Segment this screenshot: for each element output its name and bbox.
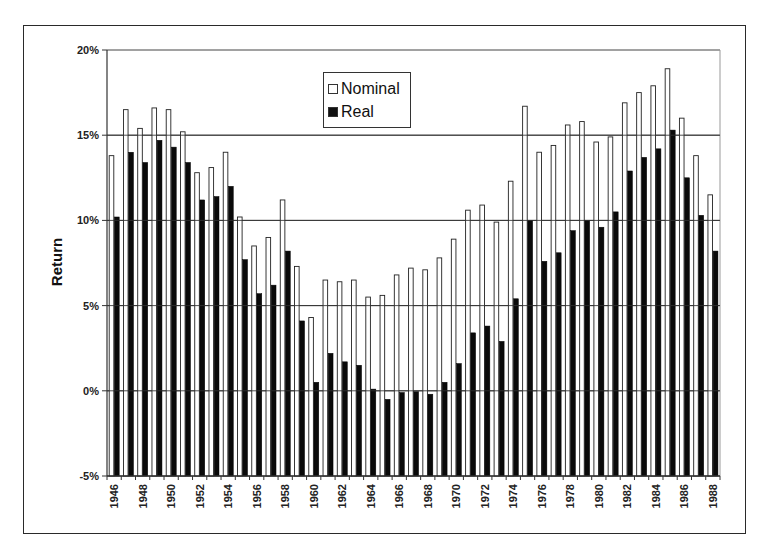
x-tick-label: 1958 xyxy=(279,484,291,508)
bar-series xyxy=(109,69,718,476)
bar-real xyxy=(699,215,704,476)
x-tick-label: 1986 xyxy=(678,484,690,508)
bar-nominal xyxy=(694,156,699,476)
bar-real xyxy=(485,326,490,476)
bar-real xyxy=(628,171,633,476)
bar-real xyxy=(143,162,148,476)
bar-real xyxy=(685,178,690,476)
bar-real xyxy=(542,261,547,476)
x-tick-label: 1984 xyxy=(650,483,662,508)
bar-real xyxy=(656,149,661,476)
x-tick-label: 1972 xyxy=(479,484,491,508)
bar-nominal xyxy=(622,103,627,476)
bar-nominal xyxy=(252,246,257,476)
bar-nominal xyxy=(565,125,570,476)
x-tick-label: 1948 xyxy=(137,484,149,508)
y-tick-label: 5% xyxy=(83,300,99,312)
bar-nominal xyxy=(437,258,442,476)
y-axis-label: Return xyxy=(48,238,65,286)
y-tick-label: 0% xyxy=(83,385,99,397)
bar-nominal xyxy=(380,295,385,476)
bar-real xyxy=(428,394,433,476)
bar-real xyxy=(414,392,419,476)
bar-nominal xyxy=(223,152,228,476)
x-tick-label: 1954 xyxy=(222,483,234,508)
bar-nominal xyxy=(280,200,285,476)
bar-nominal xyxy=(209,168,214,476)
bar-real xyxy=(528,220,533,476)
bar-real xyxy=(713,251,718,476)
bar-nominal xyxy=(551,145,556,476)
bar-nominal xyxy=(523,106,528,476)
y-axis-ticks: 20%15%10%5%0%-5% xyxy=(77,44,107,482)
bar-nominal xyxy=(266,237,271,476)
legend-label-nominal: Nominal xyxy=(341,80,400,98)
bar-nominal xyxy=(309,318,314,476)
y-tick-label: 10% xyxy=(77,214,99,226)
bar-real xyxy=(471,333,476,476)
x-tick-label: 1978 xyxy=(564,484,576,508)
bar-real xyxy=(214,197,219,476)
real-swatch-icon xyxy=(328,107,338,117)
x-tick-label: 1976 xyxy=(536,484,548,508)
x-tick-label: 1970 xyxy=(450,484,462,508)
bar-real xyxy=(514,299,519,476)
bar-real xyxy=(357,365,362,476)
bar-real xyxy=(114,217,119,476)
bar-real xyxy=(585,220,590,476)
bar-real xyxy=(499,341,504,476)
bar-nominal xyxy=(394,275,399,476)
bar-nominal xyxy=(352,280,357,476)
x-tick-label: 1946 xyxy=(108,484,120,508)
bar-real xyxy=(400,393,405,476)
bar-real xyxy=(371,389,376,476)
bar-nominal xyxy=(366,297,371,476)
x-tick-label: 1988 xyxy=(707,484,719,508)
bar-real xyxy=(571,231,576,476)
bar-nominal xyxy=(651,86,656,476)
legend-item-nominal: Nominal xyxy=(328,77,406,100)
bar-nominal xyxy=(238,217,243,476)
bar-nominal xyxy=(337,282,342,476)
bar-real xyxy=(243,260,248,476)
bar-nominal xyxy=(166,110,171,476)
x-tick-label: 1952 xyxy=(194,484,206,508)
x-tick-label: 1950 xyxy=(165,484,177,508)
bar-real xyxy=(442,382,447,476)
bar-real xyxy=(670,130,675,476)
x-tick-label: 1962 xyxy=(336,484,348,508)
bar-nominal xyxy=(580,122,585,476)
bar-nominal xyxy=(180,132,185,476)
bar-nominal xyxy=(537,152,542,476)
bar-real xyxy=(599,227,604,476)
bar-nominal xyxy=(109,156,114,476)
x-tick-label: 1956 xyxy=(251,484,263,508)
nominal-swatch-icon xyxy=(328,84,338,94)
bar-nominal xyxy=(295,266,300,476)
bar-real xyxy=(314,382,319,476)
bar-real xyxy=(342,362,347,476)
legend-item-real: Real xyxy=(328,100,406,123)
bar-nominal xyxy=(665,69,670,476)
x-axis-ticks: 1946194819501952195419561958196019621964… xyxy=(107,476,720,508)
x-tick-label: 1980 xyxy=(593,484,605,508)
bar-real xyxy=(642,157,647,476)
bar-real xyxy=(556,253,561,476)
bar-real xyxy=(328,353,333,476)
bar-nominal xyxy=(409,268,414,476)
bar-nominal xyxy=(466,210,471,476)
bar-real xyxy=(300,321,305,476)
bar-nominal xyxy=(152,108,157,476)
bar-nominal xyxy=(123,110,128,476)
bar-nominal xyxy=(679,118,684,476)
bar-nominal xyxy=(138,128,143,476)
bar-nominal xyxy=(451,239,456,476)
bar-real xyxy=(613,212,618,476)
bar-nominal xyxy=(480,205,485,476)
bar-real xyxy=(271,285,276,476)
x-tick-label: 1982 xyxy=(621,484,633,508)
bar-real xyxy=(171,147,176,476)
bar-real xyxy=(129,152,134,476)
legend: Nominal Real xyxy=(323,72,411,128)
legend-label-real: Real xyxy=(341,103,374,121)
